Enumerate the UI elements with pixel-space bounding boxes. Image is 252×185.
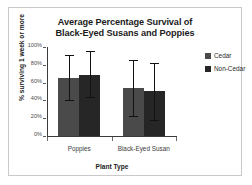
error-bar-cap-lower bbox=[86, 97, 95, 98]
legend-swatch-icon bbox=[205, 66, 211, 72]
error-bar-cap-upper bbox=[65, 55, 74, 56]
y-axis-tick-label: 0% bbox=[34, 131, 42, 137]
y-axis-tick-mark bbox=[43, 83, 46, 84]
y-axis-tick-mark bbox=[43, 65, 46, 66]
x-axis-tick-mark bbox=[47, 137, 48, 141]
y-axis-tick-label: 40% bbox=[31, 95, 42, 101]
chart-title-line-2: Black-Eyed Susans and Poppies bbox=[35, 28, 215, 39]
y-axis-title: % surviving 1 week or more bbox=[18, 3, 25, 113]
error-bar-cap-upper bbox=[129, 60, 138, 61]
error-bar-cap-upper bbox=[150, 63, 159, 64]
x-axis-category-label: Black-Eyed Susan bbox=[104, 145, 184, 152]
x-axis-tick-mark bbox=[112, 137, 113, 141]
error-bar-cap-lower bbox=[150, 120, 159, 121]
y-axis-tick-mark bbox=[43, 136, 46, 137]
plot-area bbox=[47, 47, 176, 136]
y-axis-tick-mark bbox=[43, 100, 46, 101]
legend-item[interactable]: Non-Cedar bbox=[205, 65, 245, 72]
error-bar-cap-lower bbox=[65, 100, 74, 101]
bar-group bbox=[123, 47, 165, 136]
legend-item[interactable]: Cedar bbox=[205, 52, 245, 59]
chart-title-line-1: Average Percentage Survival of bbox=[35, 17, 215, 28]
error-bar bbox=[69, 55, 70, 100]
y-axis-tick-label: 20% bbox=[31, 113, 42, 119]
legend-label: Non-Cedar bbox=[214, 65, 245, 72]
error-bar bbox=[154, 63, 155, 120]
y-axis-tick-label: 60% bbox=[31, 78, 42, 84]
error-bar bbox=[133, 60, 134, 115]
x-axis-title: Plant Type bbox=[47, 163, 177, 170]
legend-label: Cedar bbox=[214, 52, 231, 59]
legend: CedarNon-Cedar bbox=[205, 52, 245, 78]
y-axis-tick-mark bbox=[43, 118, 46, 119]
y-axis-tick-mark bbox=[43, 47, 46, 48]
y-axis-tick-label: 100% bbox=[28, 42, 42, 48]
error-bar bbox=[90, 51, 91, 96]
chart-title: Average Percentage Survival of Black-Eye… bbox=[35, 17, 215, 39]
chart-frame: Average Percentage Survival of Black-Eye… bbox=[8, 7, 242, 176]
x-axis-tick-mark bbox=[176, 137, 177, 141]
bar-group bbox=[58, 47, 100, 136]
legend-swatch-icon bbox=[205, 53, 211, 59]
y-axis-tick-label: 80% bbox=[31, 60, 42, 66]
error-bar-cap-lower bbox=[129, 116, 138, 117]
error-bar-cap-upper bbox=[86, 51, 95, 52]
